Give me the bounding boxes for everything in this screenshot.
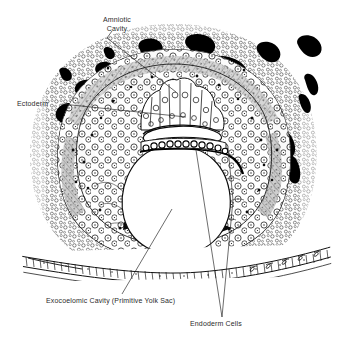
label-endoderm-cells: Endoderm Cells xyxy=(190,320,242,327)
figure-canvas: Amniotic Cavity Ectoderm Exocoelomic Cav… xyxy=(0,0,348,342)
exocoelomic-cavity xyxy=(122,146,230,255)
label-ectoderm: Ectoderm xyxy=(17,100,48,107)
label-amniotic-cavity-line1: Amniotic xyxy=(103,16,131,23)
label-exocoelomic-cavity: Exocoelomic Cavity (Primitive Yolk Sac) xyxy=(46,297,175,305)
label-amniotic-cavity-line2: Cavity xyxy=(107,25,128,33)
embryology-figure: Amniotic Cavity Ectoderm Exocoelomic Cav… xyxy=(0,0,348,342)
